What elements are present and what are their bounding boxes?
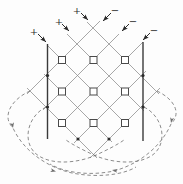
junction-dot bbox=[141, 74, 144, 77]
lattice-wire bbox=[67, 34, 144, 111]
polarity-label: − bbox=[111, 5, 119, 16]
node-square bbox=[122, 88, 129, 95]
node-square bbox=[59, 57, 66, 64]
node-square bbox=[122, 120, 129, 127]
polarity-label: − bbox=[129, 16, 137, 27]
lattice-wire bbox=[43, 34, 119, 110]
polarity-label: − bbox=[150, 25, 158, 36]
node-square bbox=[59, 88, 66, 95]
lattice-wire bbox=[74, 71, 146, 143]
lattice-wire bbox=[58, 42, 143, 127]
node-square bbox=[90, 120, 97, 127]
return-loop-arrowhead bbox=[50, 168, 56, 172]
junction-dot bbox=[46, 105, 49, 108]
junction-dot bbox=[76, 137, 79, 140]
polarity-label: + bbox=[55, 16, 63, 27]
return-loop-dashed-curve bbox=[28, 107, 124, 162]
junction-dot bbox=[141, 105, 144, 108]
node-square bbox=[90, 57, 97, 64]
node-square bbox=[90, 88, 97, 95]
polarity-label: + bbox=[30, 26, 38, 37]
junction-dot bbox=[46, 74, 49, 77]
junction-dot bbox=[107, 137, 110, 140]
lattice-diagram: +++−−− bbox=[0, 0, 183, 184]
lattice-wire bbox=[44, 74, 112, 142]
return-loop-arrowhead bbox=[170, 117, 174, 123]
polarity-label: + bbox=[73, 5, 81, 16]
return-loop-arrowhead bbox=[112, 169, 118, 173]
node-square bbox=[59, 120, 66, 127]
node-square bbox=[122, 57, 129, 64]
diagram-stage: +++−−− bbox=[0, 0, 183, 184]
